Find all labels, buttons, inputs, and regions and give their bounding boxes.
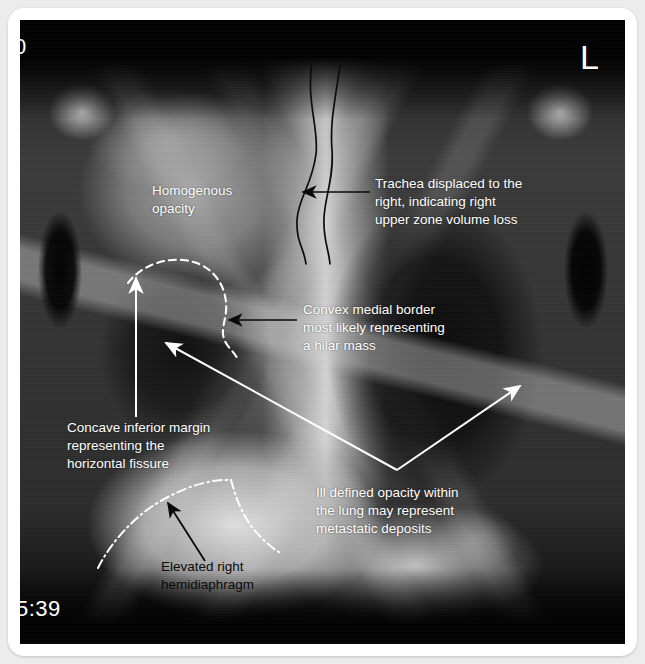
timestamp-marker: 5:39	[20, 596, 61, 622]
hilar-mass-outline-dashed	[128, 260, 238, 360]
hemidiaphragm-outline-medial	[231, 480, 282, 554]
annotation-concave-inferior-margin: Concave inferior margin representing the…	[67, 419, 210, 473]
trachea-outline-right-line	[324, 66, 340, 264]
photo-frame: Homogenous opacity Trachea displaced to …	[8, 8, 637, 656]
corner-digit-marker: 0	[20, 34, 26, 60]
photo-frame-inner: Homogenous opacity Trachea displaced to …	[20, 20, 625, 644]
annotation-ill-defined-opacity: Ill defined opacity within the lung may …	[316, 484, 459, 538]
annotation-convex-medial-border: Convex medial border most likely represe…	[303, 301, 445, 355]
hemidiaphragm-pointer-arrow	[168, 503, 205, 561]
trachea-outline-left-line	[297, 62, 317, 264]
left-side-marker: L	[580, 40, 599, 74]
annotation-elevated-hemidiaphragm: Elevated right hemidiaphragm	[161, 558, 254, 594]
annotation-homogenous-opacity: Homogenous opacity	[152, 182, 232, 218]
annotation-trachea-displaced: Trachea displaced to the right, indicati…	[375, 175, 522, 229]
hemidiaphragm-outline-dashdot	[98, 480, 230, 568]
screenshot-root: Homogenous opacity Trachea displaced to …	[0, 0, 645, 664]
metastasis-pointer-arrow-right	[397, 386, 520, 470]
